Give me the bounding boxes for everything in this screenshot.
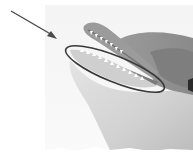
dolphin-drawing	[0, 0, 193, 159]
arrow-icon	[11, 11, 57, 39]
dolphin-illustration	[0, 0, 193, 159]
